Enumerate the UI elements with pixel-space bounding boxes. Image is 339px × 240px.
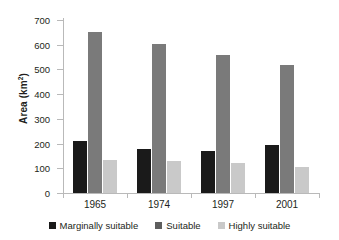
bar-group (201, 20, 245, 193)
bar (280, 65, 294, 193)
y-axis-tick-label: 500 (4, 64, 50, 75)
x-axis-tick (191, 193, 192, 198)
y-axis-tick-label: 200 (4, 138, 50, 149)
bar (201, 151, 215, 193)
legend-swatch-icon (218, 222, 225, 229)
legend-item: Marginally suitable (49, 221, 139, 231)
legend-item: Highly suitable (218, 221, 291, 231)
bar (167, 161, 181, 193)
chart-legend: Marginally suitableSuitableHighly suitab… (0, 221, 339, 231)
bar (216, 55, 230, 193)
legend-swatch-icon (49, 222, 56, 229)
bar (265, 145, 279, 193)
y-axis-tick-label: 700 (4, 15, 50, 26)
legend-label: Suitable (166, 221, 200, 231)
bar (295, 167, 309, 193)
legend-label: Highly suitable (229, 221, 291, 231)
x-axis-tick-label: 2001 (255, 199, 319, 210)
y-axis-tick-label: 0 (4, 188, 50, 199)
x-axis-tick-label: 1965 (63, 199, 127, 210)
bar-group (265, 20, 309, 193)
x-axis-tick-label: 1997 (191, 199, 255, 210)
bar (137, 149, 151, 193)
bar-group (137, 20, 181, 193)
bar (73, 141, 87, 193)
y-axis-tick-label: 100 (4, 163, 50, 174)
plot-bars (63, 20, 319, 193)
x-axis-tick (127, 193, 128, 198)
bar (88, 32, 102, 193)
x-axis-tick (63, 193, 64, 198)
y-axis-tick-label: 300 (4, 113, 50, 124)
y-axis-title-exponent: 2 (16, 76, 23, 80)
x-axis-tick (255, 193, 256, 198)
bar (152, 44, 166, 193)
x-axis-tick (319, 193, 320, 198)
legend-swatch-icon (155, 222, 162, 229)
legend-item: Suitable (155, 221, 200, 231)
bar-group (73, 20, 117, 193)
y-axis-tick-label: 600 (4, 39, 50, 50)
legend-label: Marginally suitable (60, 221, 139, 231)
bar-chart: Area (km2) 0100200300400500600700 196519… (0, 0, 339, 240)
bar (231, 163, 245, 193)
y-axis-tick-label: 400 (4, 89, 50, 100)
x-axis-tick-label: 1974 (127, 199, 191, 210)
bar (103, 160, 117, 193)
